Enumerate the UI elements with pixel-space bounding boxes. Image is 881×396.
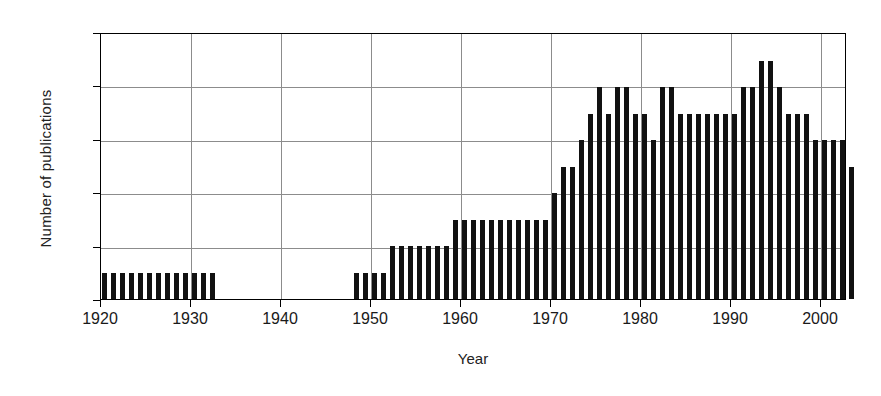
bar — [633, 114, 638, 300]
bar — [408, 246, 413, 299]
bar — [174, 273, 179, 300]
x-tick-label-2000: 2000 — [785, 311, 855, 327]
bar — [615, 87, 620, 299]
bar — [777, 87, 782, 299]
bar — [687, 114, 692, 300]
bar — [507, 220, 512, 300]
x-tick-mark-1970 — [550, 300, 551, 307]
x-tick-label-1920: 1920 — [65, 311, 135, 327]
x-tick-mark-1930 — [190, 300, 191, 307]
bar — [570, 167, 575, 300]
bar — [156, 273, 161, 300]
bar — [534, 220, 539, 300]
bar — [696, 114, 701, 300]
bar — [444, 246, 449, 299]
y-tick-mark-8 — [93, 86, 100, 87]
bar — [795, 114, 800, 300]
y-tick-mark-10 — [93, 33, 100, 34]
x-tick-mark-1940 — [280, 300, 281, 307]
bars-layer — [101, 34, 845, 299]
bar — [138, 273, 143, 300]
bar — [435, 246, 440, 299]
x-tick-mark-1920 — [100, 300, 101, 307]
bar — [111, 273, 116, 300]
bar — [417, 246, 422, 299]
bar — [192, 273, 197, 300]
bar — [606, 114, 611, 300]
x-tick-mark-1990 — [730, 300, 731, 307]
bar — [750, 87, 755, 299]
bar — [183, 273, 188, 300]
bar — [201, 273, 206, 300]
bar — [678, 114, 683, 300]
x-tick-mark-1950 — [370, 300, 371, 307]
y-axis-title: Number of publications — [37, 39, 54, 299]
y-tick-mark-0 — [93, 300, 100, 301]
bar — [651, 140, 656, 299]
bar — [462, 220, 467, 300]
bar — [480, 220, 485, 300]
bar — [705, 114, 710, 300]
bar — [579, 140, 584, 299]
bar — [768, 61, 773, 300]
bar — [597, 87, 602, 299]
publications-bar-chart: Number of publications Year 0246810 1920… — [0, 0, 881, 396]
x-tick-label-1980: 1980 — [605, 311, 675, 327]
bar — [660, 87, 665, 299]
bar — [561, 167, 566, 300]
bar — [120, 273, 125, 300]
bar — [759, 61, 764, 300]
bar — [525, 220, 530, 300]
bar — [822, 140, 827, 299]
bar — [624, 87, 629, 299]
x-tick-label-1940: 1940 — [245, 311, 315, 327]
x-tick-mark-1980 — [640, 300, 641, 307]
bar — [390, 246, 395, 299]
bar — [489, 220, 494, 300]
x-tick-label-1970: 1970 — [515, 311, 585, 327]
bar — [831, 140, 836, 299]
bar — [453, 220, 458, 300]
bar — [498, 220, 503, 300]
bar — [210, 273, 215, 300]
bar — [849, 167, 854, 300]
bar — [372, 273, 377, 300]
y-tick-mark-2 — [93, 247, 100, 248]
x-tick-label-1930: 1930 — [155, 311, 225, 327]
bar — [516, 220, 521, 300]
x-tick-label-1950: 1950 — [335, 311, 405, 327]
bar — [786, 114, 791, 300]
bar — [363, 273, 368, 300]
bar — [354, 273, 359, 300]
x-tick-mark-2000 — [820, 300, 821, 307]
bar — [714, 114, 719, 300]
y-tick-mark-6 — [93, 140, 100, 141]
bar — [165, 273, 170, 300]
bar — [804, 114, 809, 300]
x-axis-title: Year — [100, 350, 846, 367]
bar — [642, 114, 647, 300]
bar — [669, 87, 674, 299]
x-tick-mark-1960 — [460, 300, 461, 307]
bar — [840, 140, 845, 299]
x-tick-label-1990: 1990 — [695, 311, 765, 327]
x-tick-label-1960: 1960 — [425, 311, 495, 327]
bar — [381, 273, 386, 300]
bar — [426, 246, 431, 299]
bar — [552, 193, 557, 299]
bar — [102, 273, 107, 300]
bar — [732, 114, 737, 300]
bar — [399, 246, 404, 299]
bar — [129, 273, 134, 300]
bar — [588, 114, 593, 300]
y-tick-mark-4 — [93, 193, 100, 194]
bar — [147, 273, 152, 300]
bar — [723, 114, 728, 300]
bar — [471, 220, 476, 300]
bar — [543, 220, 548, 300]
bar — [741, 87, 746, 299]
bar — [813, 140, 818, 299]
